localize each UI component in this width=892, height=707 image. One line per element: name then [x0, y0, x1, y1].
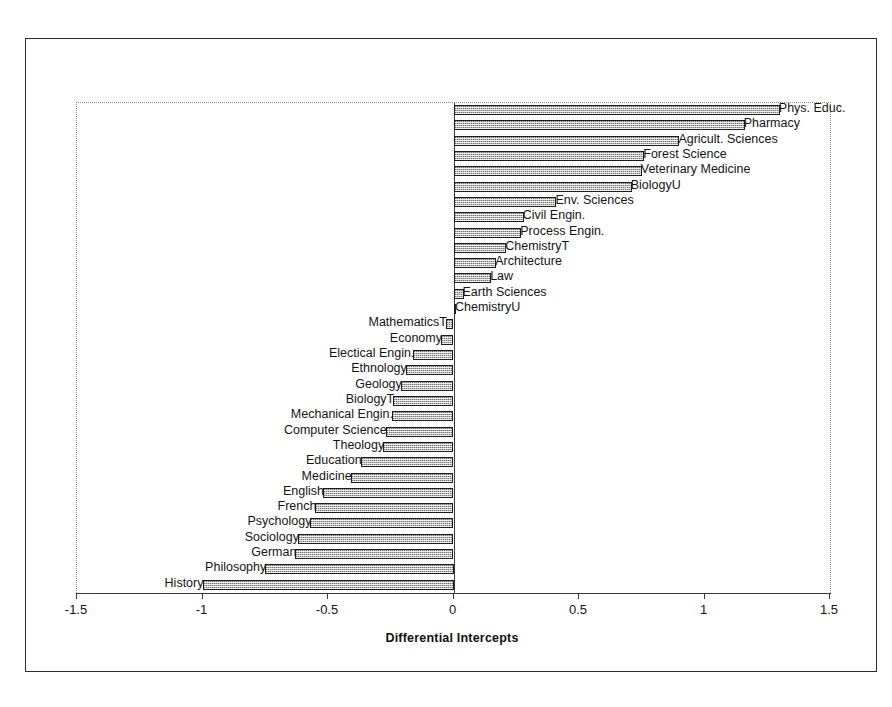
bar	[310, 518, 453, 528]
bar-row: Education	[77, 455, 830, 470]
bar-row: Process Engin.	[77, 226, 830, 241]
bar	[203, 580, 454, 590]
bar-row: French	[77, 501, 830, 516]
bar	[454, 120, 745, 130]
bar-row: Phys. Educ.	[77, 103, 830, 118]
bar	[446, 319, 454, 329]
x-axis-tick-label: -1	[196, 602, 208, 617]
x-axis-tick	[327, 593, 328, 599]
bar-category-label: Pharmacy	[744, 116, 800, 131]
bar-category-label: Computer Science	[284, 423, 387, 438]
bar	[454, 136, 680, 146]
bar-category-label: Agricult. Sciences	[678, 132, 777, 147]
bar	[454, 228, 522, 238]
bar	[454, 182, 632, 192]
bar-category-label: Law	[490, 269, 513, 284]
bar	[454, 273, 492, 283]
x-axis-tick-label: -0.5	[316, 602, 338, 617]
bar-row: Theology	[77, 440, 830, 455]
x-axis-tick-labels: -1.5-1-0.500.511.5	[76, 602, 831, 620]
bar-category-label: Geology	[355, 377, 402, 392]
bar-category-label: Veterinary Medicine	[641, 162, 751, 177]
bar-row: Architecture	[77, 256, 830, 271]
bar-category-label: Electical Engin.	[329, 346, 414, 361]
bar-row: English	[77, 486, 830, 501]
bar-category-label: Economy	[390, 331, 442, 346]
bar-row: Medicine	[77, 471, 830, 486]
bar-row: Electical Engin.	[77, 348, 830, 363]
bar-category-label: English	[283, 484, 324, 499]
bar-row: ChemistryT	[77, 241, 830, 256]
bar-row: Geology	[77, 379, 830, 394]
bar-row: German	[77, 547, 830, 562]
bar-category-label: German	[251, 545, 296, 560]
x-axis-tick	[202, 593, 203, 599]
bar-row: Earth Sciences	[77, 287, 830, 302]
bar-row: MathematicsT	[77, 317, 830, 332]
bar	[454, 243, 507, 253]
x-axis-tick-label: 0.5	[569, 602, 587, 617]
bar	[386, 427, 454, 437]
bar	[454, 197, 557, 207]
x-axis-title: Differential Intercepts	[26, 631, 878, 645]
bar-category-label: Medicine	[302, 469, 352, 484]
bar-category-label: MathematicsT	[368, 315, 447, 330]
bar	[406, 365, 454, 375]
bar-category-label: Sociology	[245, 530, 299, 545]
bar-row: History	[77, 578, 830, 593]
bar-category-label: ChemistryT	[505, 239, 569, 254]
x-axis-tick	[76, 593, 77, 599]
bar	[401, 381, 454, 391]
x-axis-tick-label: 0	[449, 602, 456, 617]
bar-category-label: Architecture	[495, 254, 562, 269]
bar-category-label: Earth Sciences	[463, 285, 547, 300]
bar-category-label: Forest Science	[643, 147, 726, 162]
plot-area: Phys. Educ.PharmacyAgricult. SciencesFor…	[76, 102, 831, 593]
bar-row: Civil Engin.	[77, 210, 830, 225]
x-axis-tick	[578, 593, 579, 599]
bar-row: Ethnology	[77, 363, 830, 378]
bar-category-label: Env. Sciences	[555, 193, 633, 208]
bar-category-label: Civil Engin.	[523, 208, 586, 223]
bar	[441, 335, 454, 345]
bar	[393, 396, 453, 406]
bar-category-label: Theology	[333, 438, 384, 453]
bar-category-label: BiologyT	[346, 392, 395, 407]
bar-row: Mechanical Engin.	[77, 409, 830, 424]
bar-row: ChemistryU	[77, 302, 830, 317]
bar-row: Psychology	[77, 516, 830, 531]
bar	[361, 457, 454, 467]
x-axis-tick-label: 1	[700, 602, 707, 617]
bar-row: Env. Sciences	[77, 195, 830, 210]
bar-row: Veterinary Medicine	[77, 164, 830, 179]
bar	[383, 442, 453, 452]
bar	[323, 488, 454, 498]
bar-category-label: Process Engin.	[520, 224, 604, 239]
x-axis-tick	[453, 593, 454, 599]
bar-category-label: Mechanical Engin.	[291, 407, 393, 422]
x-axis-ticks	[76, 593, 831, 601]
bar	[265, 564, 453, 574]
bar	[295, 549, 453, 559]
bar	[351, 473, 454, 483]
bar-category-label: Psychology	[248, 514, 312, 529]
bar-row: BiologyU	[77, 180, 830, 195]
x-axis-tick-label: 1.5	[820, 602, 838, 617]
bar-category-label: History	[165, 576, 204, 591]
bar	[454, 105, 780, 115]
x-axis-tick	[829, 593, 830, 599]
bar-row: Sociology	[77, 532, 830, 547]
bar-category-label: French	[278, 499, 317, 514]
x-axis-tick	[704, 593, 705, 599]
bar-category-label: Phys. Educ.	[779, 101, 846, 116]
bar	[298, 534, 454, 544]
bar	[454, 151, 645, 161]
bar-category-label: BiologyU	[631, 178, 681, 193]
bar	[454, 212, 524, 222]
bar	[315, 503, 453, 513]
bar	[454, 166, 642, 176]
figure-outer-frame: Phys. Educ.PharmacyAgricult. SciencesFor…	[25, 38, 877, 672]
bar-category-label: ChemistryU	[455, 300, 520, 315]
x-axis-tick-label: -1.5	[65, 602, 87, 617]
bar-row: Computer Science	[77, 425, 830, 440]
